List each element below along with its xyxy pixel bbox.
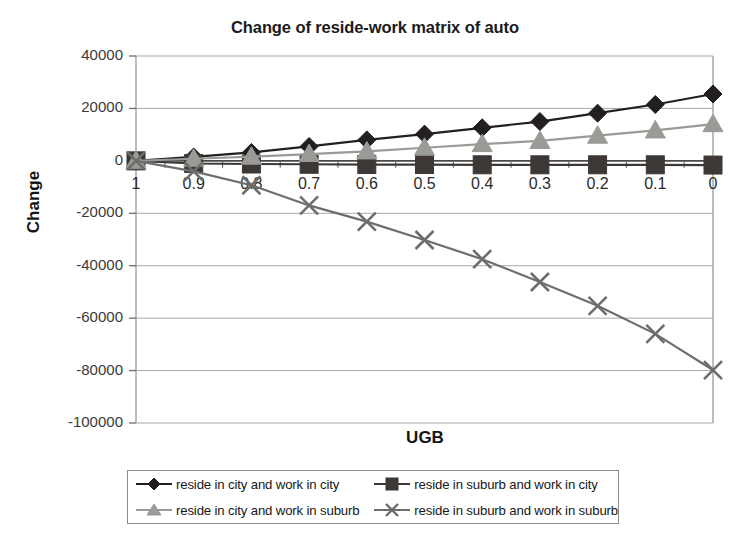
svg-text:0.4: 0.4: [471, 175, 493, 192]
svg-text:-20000: -20000: [76, 203, 123, 220]
svg-text:-100000: -100000: [68, 413, 123, 430]
legend-entry[interactable]: reside in city and work in suburb: [128, 502, 366, 518]
y-axis-ticks: [129, 56, 136, 423]
legend-label: reside in city and work in suburb: [176, 503, 359, 518]
svg-text:0.2: 0.2: [586, 175, 608, 192]
plot-area: 40000200000-20000-40000-60000-80000-1000…: [0, 0, 750, 470]
legend-label: reside in city and work in city: [176, 477, 339, 492]
legend-entry[interactable]: reside in suburb and work in suburb: [366, 502, 618, 518]
svg-text:-80000: -80000: [76, 361, 123, 378]
legend-diamond-icon: [134, 476, 174, 492]
legend-label: reside in suburb and work in city: [414, 477, 597, 492]
svg-text:0: 0: [115, 151, 123, 168]
svg-text:1: 1: [132, 175, 141, 192]
svg-text:0.5: 0.5: [413, 175, 435, 192]
svg-text:-40000: -40000: [76, 256, 123, 273]
svg-text:0.1: 0.1: [644, 175, 666, 192]
svg-text:-60000: -60000: [76, 308, 123, 325]
svg-text:0: 0: [709, 175, 718, 192]
legend-square-icon: [372, 476, 412, 492]
chart-container: Change of reside-work matrix of auto Cha…: [0, 0, 750, 540]
y-axis-tick-labels: 40000200000-20000-40000-60000-80000-1000…: [68, 46, 123, 430]
svg-text:0.3: 0.3: [529, 175, 551, 192]
legend-label: reside in suburb and work in suburb: [414, 503, 618, 518]
legend-entry[interactable]: reside in city and work in city: [128, 476, 366, 492]
svg-text:20000: 20000: [81, 98, 123, 115]
svg-text:0.6: 0.6: [356, 175, 378, 192]
legend-triangle-icon: [134, 502, 174, 518]
x-axis-title: UGB: [136, 428, 714, 448]
legend-cross-icon: [372, 502, 412, 518]
legend-entry[interactable]: reside in suburb and work in city: [366, 476, 618, 492]
svg-text:0.7: 0.7: [298, 175, 320, 192]
svg-text:40000: 40000: [81, 46, 123, 63]
legend: reside in city and work in cityreside in…: [127, 470, 619, 524]
data-series-layer: [126, 85, 723, 379]
